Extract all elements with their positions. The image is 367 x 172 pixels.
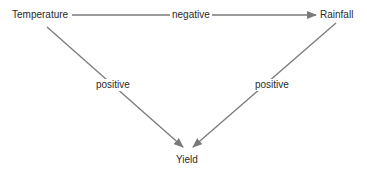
diagram-canvas bbox=[0, 0, 367, 172]
node-rainfall: Rainfall bbox=[320, 9, 353, 21]
node-temperature: Temperature bbox=[12, 9, 68, 21]
edge-label-positive-right: positive bbox=[253, 79, 291, 91]
edge-label-negative: negative bbox=[170, 9, 212, 21]
node-yield: Yield bbox=[176, 154, 198, 166]
edge-label-positive-left: positive bbox=[94, 79, 132, 91]
